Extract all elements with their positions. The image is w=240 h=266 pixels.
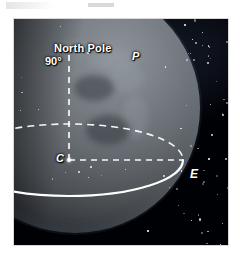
ellipse-back-arc <box>14 124 183 160</box>
center-point-marker <box>67 158 71 162</box>
scan-artifact <box>6 2 76 9</box>
diagram-panel: North Pole 90° P C E <box>14 19 228 245</box>
diagram-lines <box>14 19 228 245</box>
ellipse-front-arc <box>14 160 183 196</box>
figure-stage: North Pole 90° P C E <box>0 0 240 266</box>
scan-artifact-2 <box>88 3 114 7</box>
pole-point-marker <box>67 46 71 50</box>
